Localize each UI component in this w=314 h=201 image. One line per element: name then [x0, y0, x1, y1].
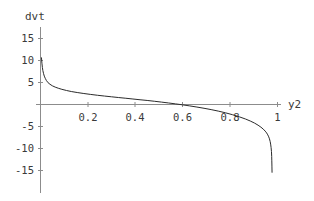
- y-tick-label-4: -10: [15, 142, 34, 154]
- chart-figure: 0.2 0.4 0.6 0.8 1 15 10 5 -5 -10 -15 dvt…: [0, 0, 314, 201]
- plot-canvas: 0.2 0.4 0.6 0.8 1 15 10 5 -5 -10 -15 dvt…: [0, 0, 314, 201]
- y-tick-label-0: 15: [21, 32, 34, 44]
- x-tick-label-2: 0.6: [173, 111, 192, 123]
- x-axis-title: y2: [288, 98, 301, 111]
- y-tick-label-5: -15: [15, 164, 34, 176]
- y-axis-title: dvt: [25, 10, 45, 23]
- x-tick-label-0: 0.2: [79, 111, 98, 123]
- y-tick-label-3: -5: [21, 120, 34, 132]
- y-tick-label-1: 10: [21, 54, 34, 66]
- y-tick-label-2: 5: [28, 76, 34, 88]
- x-tick-label-4: 1: [274, 111, 280, 123]
- x-tick-label-1: 0.4: [126, 111, 145, 123]
